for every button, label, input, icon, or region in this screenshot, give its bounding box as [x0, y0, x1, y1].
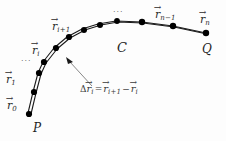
label-point-q: Q: [202, 43, 212, 55]
vector-arrow-icon: →: [129, 78, 137, 87]
vector-arrow-icon: →: [102, 78, 110, 87]
vertex-dot: [114, 18, 120, 24]
vector-curve-diagram: →r0 →r1 ··· →ri →ri+1 ··· →rn−1 →rn P Q …: [0, 0, 226, 141]
label-r0-subscript: 0: [12, 105, 17, 113]
ellipsis-top: ···: [113, 8, 124, 16]
label-ri-plus-1: →ri+1: [52, 17, 70, 33]
diagram-canvas: [0, 0, 226, 141]
vector-arrow-icon: →: [85, 78, 93, 87]
vertex-dot: [31, 89, 37, 95]
label-ri: →ri: [32, 41, 40, 57]
vertex-dot: [26, 111, 32, 117]
vertex-dot: [170, 23, 176, 29]
vector-arrow-icon: →: [5, 68, 13, 77]
vertex-dot: [36, 70, 42, 76]
vector-arrow-icon: →: [154, 3, 162, 12]
eq-term1-subscript: i+1: [108, 88, 121, 96]
vertex-dot: [41, 59, 47, 65]
vector-arrow-icon: →: [199, 8, 207, 17]
label-curve-c: C: [117, 41, 127, 54]
vector-arrow-icon: →: [31, 39, 39, 48]
eq-lhs-subscript: i: [91, 88, 93, 96]
vector-arrow-icon: →: [6, 94, 14, 103]
leader-arrowhead-icon: [66, 57, 73, 64]
label-point-p: P: [33, 122, 41, 134]
label-r0: →r0: [7, 96, 17, 112]
curve-outer-stroke: [31, 22, 207, 114]
curve-inner-stroke: [28, 21, 206, 113]
annotation-equation: Δ→ri=→ri+1−→ri: [80, 84, 138, 94]
label-r1: →r1: [6, 70, 16, 86]
vector-arrow-icon: →: [51, 15, 59, 24]
vertex-dot: [203, 30, 209, 36]
ellipsis-left: ···: [21, 57, 32, 65]
label-ri1-subscript: i+1: [57, 26, 70, 34]
eq-term2-subscript: i: [136, 88, 138, 96]
vertex-dot: [97, 22, 103, 28]
label-ri-subscript: i: [37, 50, 39, 58]
vertex-dot: [66, 34, 72, 40]
vertex-dot: [139, 19, 145, 25]
label-rn-minus-1: →rn−1: [155, 5, 176, 21]
vertex-dot: [53, 45, 59, 51]
label-rn-subscript: n: [205, 19, 210, 27]
vertex-dot: [81, 27, 87, 33]
label-rn1-subscript: n−1: [160, 14, 175, 22]
label-r1-subscript: 1: [11, 79, 16, 87]
label-rn: →rn: [200, 10, 210, 26]
